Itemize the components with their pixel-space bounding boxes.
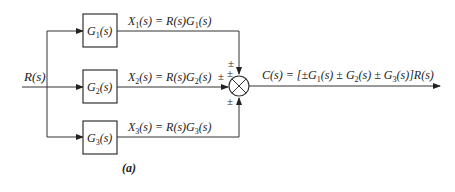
sign-left: ±	[218, 70, 224, 82]
input-label: R(s)	[23, 69, 46, 84]
sign-bottom: ±	[227, 95, 233, 107]
block-g2: G2(s)	[83, 70, 117, 103]
sign-top: ±	[227, 67, 233, 79]
signal-x2-label: X2(s) = R(s)G2(s)	[127, 70, 211, 86]
output-expression: C(s) = [±G1(s) ± G2(s) ± G3(s)]R(s)	[262, 68, 434, 84]
summing-junction	[229, 76, 249, 96]
figure-caption: (a)	[122, 161, 136, 175]
svg-text:G1(s): G1(s)	[87, 24, 112, 40]
svg-text:G2(s): G2(s)	[87, 80, 112, 96]
g1-output-line	[117, 31, 239, 74]
block-diagram: R(s) G1(s) G2(s) G3(s) X1(s) = R(s)G1(s)…	[0, 0, 455, 192]
svg-text:G3(s): G3(s)	[87, 131, 112, 147]
block-g1: G1(s)	[83, 14, 117, 47]
signal-x3-label: X3(s) = R(s)G3(s)	[127, 120, 211, 136]
block-g3: G3(s)	[83, 121, 117, 154]
signal-x1-label: X1(s) = R(s)G1(s)	[127, 14, 211, 30]
